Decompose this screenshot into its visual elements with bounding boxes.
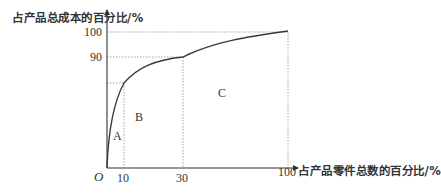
y-tick-100: 100	[84, 25, 102, 39]
x-tick-100: 100	[278, 165, 296, 179]
reference-lines	[107, 32, 288, 168]
x-tick-30: 30	[176, 171, 188, 185]
cumulative-curve	[107, 31, 288, 168]
y-axis-title: 占产品总成本的百分比/%	[12, 11, 144, 25]
region-c-label: C	[218, 86, 226, 100]
region-a-label: A	[113, 129, 122, 143]
origin-label: O	[94, 170, 103, 184]
x-tick-10: 10	[117, 171, 129, 185]
x-axis-title: 占产品零件总数的百分比/%	[298, 164, 441, 178]
region-b-label: B	[135, 110, 143, 124]
y-tick-90: 90	[90, 50, 102, 64]
